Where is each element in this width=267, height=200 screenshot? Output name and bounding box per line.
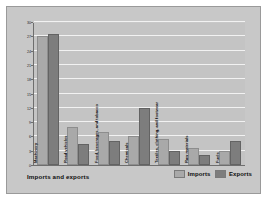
y-tick-label: 0 <box>15 163 31 169</box>
y-axis-title: Percentage of total <box>5 0 13 21</box>
category-label: Food, beverages, and tobacco <box>94 104 99 163</box>
y-tick-label: 21 <box>15 63 31 69</box>
legend-label: Imports <box>188 171 211 177</box>
legend-label: Exports <box>229 171 252 177</box>
chart-figure: Percentage of total 036912151821242730 M… <box>6 6 261 194</box>
category-label: Fuels <box>215 152 220 163</box>
y-tick-label: 18 <box>15 77 31 83</box>
legend-entry[interactable]: Imports <box>174 170 210 178</box>
bar-imports[interactable] <box>67 127 78 165</box>
bar-group: Road vehicles <box>67 23 93 165</box>
category-label: Textiles, clothing, and footwear <box>154 102 159 163</box>
category-label: Chemicals <box>124 143 129 163</box>
bar-exports[interactable] <box>139 108 150 165</box>
bar-imports[interactable] <box>98 132 109 165</box>
y-tick-label: 30 <box>15 20 31 26</box>
category-label: Road vehicles <box>63 135 68 163</box>
y-tick-label: 3 <box>15 149 31 155</box>
bar-group: Fuels <box>219 23 245 165</box>
y-tick-label: 12 <box>15 106 31 112</box>
y-tick-label: 24 <box>15 49 31 55</box>
y-axis-tick-labels: 036912151821242730 <box>15 23 31 166</box>
bar-exports[interactable] <box>230 141 241 165</box>
imports-swatch <box>174 170 185 178</box>
chart-title: Imports and exports <box>27 173 89 180</box>
y-tick-label: 15 <box>15 92 31 98</box>
gridline <box>34 21 245 22</box>
chart-legend: ImportsExports <box>174 170 252 178</box>
bar-imports[interactable] <box>158 139 169 165</box>
bar-exports[interactable] <box>169 151 180 165</box>
bar-imports[interactable] <box>188 148 199 165</box>
category-label: Machinery <box>33 143 38 163</box>
bar-group: Textiles, clothing, and footwear <box>158 23 184 165</box>
plot-area: MachineryRoad vehiclesFood, beverages, a… <box>33 23 245 166</box>
bar-groups: MachineryRoad vehiclesFood, beverages, a… <box>34 23 245 165</box>
y-tick-label: 9 <box>15 120 31 126</box>
bar-group: Chemicals <box>128 23 154 165</box>
bar-exports[interactable] <box>48 34 59 165</box>
bar-imports[interactable] <box>37 36 48 165</box>
bar-exports[interactable] <box>109 141 120 165</box>
bar-imports[interactable] <box>128 136 139 165</box>
bar-imports[interactable] <box>219 151 230 165</box>
legend-entry[interactable]: Exports <box>215 170 252 178</box>
bar-group: Machinery <box>37 23 63 165</box>
y-tick-label: 6 <box>15 134 31 140</box>
y-tick-label: 27 <box>15 34 31 40</box>
bar-group: Food, beverages, and tobacco <box>98 23 124 165</box>
bar-exports[interactable] <box>199 155 210 165</box>
category-label: Raw materials <box>184 135 189 163</box>
bar-group: Raw materials <box>188 23 214 165</box>
exports-swatch <box>215 170 226 178</box>
bar-exports[interactable] <box>78 144 89 165</box>
